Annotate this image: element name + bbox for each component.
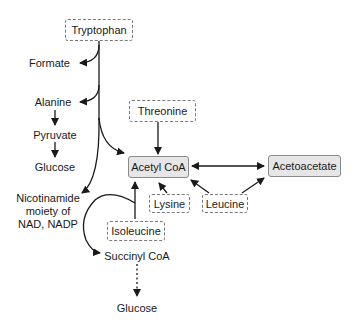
arrow-tryptophan-formate [80,45,99,63]
isoleucine-box: Isoleucine [107,221,165,241]
nicotinamide-label-line1: Nicotinamide [10,192,86,205]
alanine-label: Alanine [28,96,78,109]
lysine-box: Lysine [149,194,190,213]
leucine-box: Leucine [202,194,248,213]
acetyl-coa-box: Acetyl CoA [128,156,189,178]
threonine-label: Threonine [138,105,188,117]
arrow-lysine-acetylcoa [159,183,167,193]
formate-label: Formate [22,57,77,70]
leucine-label: Leucine [206,198,245,210]
arrow-tryptophan-nicotinamide [82,118,99,193]
glucose-label-2: Glucose [112,302,162,315]
succinyl-coa-label: Succinyl CoA [102,250,172,263]
threonine-box: Threonine [129,100,196,122]
arrow-tryptophan-acetylcoa [99,118,124,153]
arrow-leucine-acetoacetate [242,178,264,193]
glucose-label-1: Glucose [28,161,82,174]
lysine-label: Lysine [154,198,185,210]
acetoacetate-box: Acetoacetate [268,155,341,177]
nicotinamide-label-line3: NAD, NADP [10,218,86,231]
arrow-tryptophan-alanine [80,85,99,102]
tryptophan-box: Tryptophan [65,19,133,41]
nicotinamide-label-line2: moiety of [10,205,86,218]
acetyl-coa-label: Acetyl CoA [131,161,185,173]
acetoacetate-label: Acetoacetate [272,160,336,172]
arrow-leucine-acetylcoa [191,180,209,193]
tryptophan-label: Tryptophan [71,24,126,36]
pyruvate-label: Pyruvate [28,129,82,142]
isoleucine-label: Isoleucine [111,225,161,237]
